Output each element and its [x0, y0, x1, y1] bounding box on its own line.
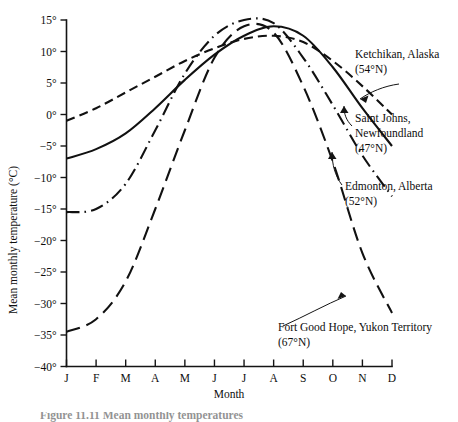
temperature-line-chart: 15°10°5°0°−5°−10°−15°−20°−25°−30°−35°−40…: [0, 0, 458, 422]
x-tick-label: N: [358, 372, 367, 384]
y-tick-label: −25°: [34, 266, 57, 278]
y-axis-ticks: 15°10°5°0°−5°−10°−15°−20°−25°−30°−35°−40…: [34, 14, 67, 373]
x-axis-ticks: JFMAMJJASOND: [64, 360, 396, 384]
y-tick-label: −15°: [34, 203, 57, 215]
annotation-saint-johns: Saint Johns, Newfoundland (47°N): [355, 112, 424, 155]
x-tick-label: M: [180, 372, 190, 384]
x-tick-label: A: [269, 372, 278, 384]
annotation-edmonton-line1: Edmonton, Alberta: [345, 180, 433, 193]
series-line: [67, 26, 393, 158]
x-tick-label: J: [212, 372, 217, 384]
annotation-fort-good-hope: Fort Good Hope, Yukon Territory (67°N): [278, 321, 432, 349]
y-tick-label: −35°: [34, 329, 57, 341]
figure-container: 15°10°5°0°−5°−10°−15°−20°−25°−30°−35°−40…: [0, 0, 458, 422]
y-tick-label: −5°: [40, 140, 57, 152]
x-tick-label: A: [151, 372, 160, 384]
x-tick-label: D: [388, 372, 396, 384]
figure-caption: Figure 11.11 Mean monthly temperatures: [40, 412, 243, 421]
annotation-fort-good-hope-line1: Fort Good Hope, Yukon Territory: [278, 321, 432, 334]
y-tick-label: 0°: [46, 109, 57, 121]
y-tick-label: 5°: [46, 77, 57, 89]
y-tick-label: −20°: [34, 235, 57, 247]
x-axis-title: Month: [214, 388, 245, 400]
series-line: [67, 18, 393, 212]
series-group: [67, 18, 393, 331]
y-tick-label: 10°: [40, 46, 57, 58]
annotation-fort-good-hope-line2: (67°N): [278, 336, 310, 349]
y-tick-label: −30°: [34, 298, 57, 310]
annotation-ketchikan-line1: Ketchikan, Alaska: [355, 48, 439, 61]
annotation-edmonton: Edmonton, Alberta (52°N): [345, 180, 433, 208]
x-tick-label: J: [64, 372, 69, 384]
y-tick-label: 15°: [40, 14, 57, 26]
figure-caption-strip: Figure 11.11 Mean monthly temperatures: [0, 412, 458, 422]
x-tick-label: S: [300, 372, 306, 384]
annotation-saint-johns-line1: Saint Johns,: [355, 112, 411, 125]
series-line: [67, 24, 393, 332]
arrowhead-saint-johns: [340, 106, 349, 113]
x-tick-label: M: [121, 372, 131, 384]
y-tick-label: −40°: [34, 361, 57, 373]
y-tick-label: −10°: [34, 172, 57, 184]
y-axis-title: Mean monthly temperature (°C): [7, 166, 20, 314]
x-tick-label: F: [93, 372, 99, 384]
annotation-saint-johns-line3: (47°N): [355, 142, 387, 155]
annotation-saint-johns-line2: Newfoundland: [355, 127, 424, 139]
annotation-ketchikan: Ketchikan, Alaska (54°N): [355, 48, 439, 76]
annotation-ketchikan-line2: (54°N): [355, 63, 387, 76]
x-tick-label: J: [242, 372, 247, 384]
annotation-edmonton-line2: (52°N): [345, 195, 377, 208]
x-tick-label: O: [329, 372, 337, 384]
